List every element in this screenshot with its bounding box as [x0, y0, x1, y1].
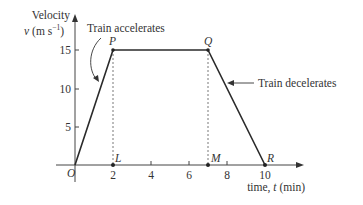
y-tick-label-15: 15: [60, 44, 72, 56]
origin-label: O: [67, 167, 76, 179]
point-label-L: L: [114, 152, 121, 164]
point-P: [111, 48, 115, 52]
velocity-time-graph: 5 10 15 2 4 6 8 10 O P Q R L M Velocity …: [0, 0, 363, 205]
point-label-M: M: [210, 152, 222, 164]
x-tick-label-6: 6: [186, 169, 192, 181]
y-tick-label-10: 10: [60, 83, 72, 95]
y-axis-label-line2: v (m s−1): [24, 23, 64, 38]
x-tick-label-4: 4: [148, 169, 154, 181]
point-label-R: R: [266, 152, 274, 164]
x-axis-arrow-icon: [296, 162, 304, 168]
annotation-decelerates: Train decelerates: [258, 77, 337, 89]
y-tick-label-5: 5: [65, 121, 71, 133]
x-tick-label-10: 10: [259, 169, 271, 181]
point-label-Q: Q: [204, 35, 213, 47]
annotation-accelerates-arrow: [91, 38, 101, 80]
x-axis-label: time, t (min): [247, 181, 305, 194]
point-Q: [206, 48, 210, 52]
y-axis-arrow-icon: [72, 14, 78, 22]
point-label-P: P: [108, 35, 116, 47]
x-tick-label-2: 2: [110, 169, 116, 181]
y-axis-label-line1: Velocity: [32, 9, 71, 22]
annotation-accelerates: Train accelerates: [87, 22, 165, 34]
velocity-line: [75, 50, 265, 165]
x-tick-label-8: 8: [224, 169, 230, 181]
point-M: [206, 163, 210, 167]
arrowhead-icon: [227, 80, 234, 86]
